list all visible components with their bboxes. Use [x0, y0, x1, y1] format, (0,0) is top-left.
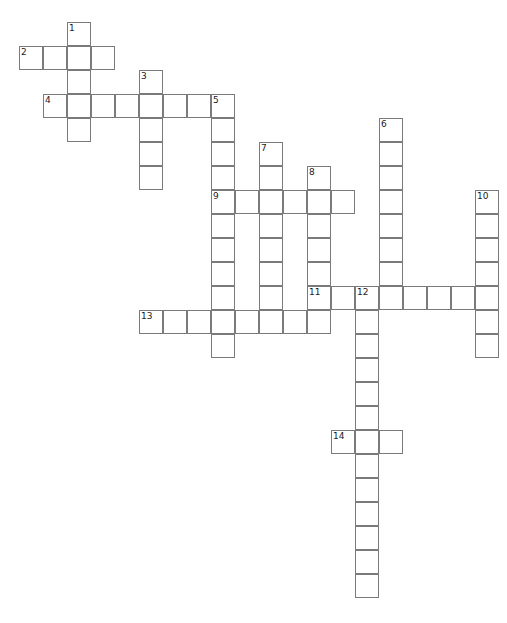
crossword-cell[interactable]	[355, 478, 379, 502]
crossword-cell[interactable]	[379, 190, 403, 214]
crossword-cell[interactable]	[355, 286, 379, 310]
crossword-cell[interactable]	[67, 118, 91, 142]
crossword-cell[interactable]	[163, 94, 187, 118]
crossword-cell[interactable]	[139, 166, 163, 190]
crossword-cell[interactable]	[355, 358, 379, 382]
crossword-cell[interactable]	[379, 430, 403, 454]
crossword-cell[interactable]	[67, 22, 91, 46]
crossword-cell[interactable]	[475, 286, 499, 310]
crossword-cell[interactable]	[475, 214, 499, 238]
crossword-cell[interactable]	[139, 118, 163, 142]
crossword-cell[interactable]	[475, 334, 499, 358]
crossword-cell[interactable]	[67, 46, 91, 70]
crossword-cell[interactable]	[163, 310, 187, 334]
crossword-cell[interactable]	[235, 190, 259, 214]
crossword-cell[interactable]	[43, 46, 67, 70]
crossword-grid[interactable]: 1234567891011121314	[0, 0, 507, 623]
crossword-cell[interactable]	[235, 310, 259, 334]
crossword-cell[interactable]	[331, 190, 355, 214]
crossword-cell[interactable]	[211, 142, 235, 166]
crossword-cell[interactable]	[355, 430, 379, 454]
crossword-cell[interactable]	[211, 94, 235, 118]
crossword-cell[interactable]	[139, 70, 163, 94]
crossword-cell[interactable]	[211, 310, 235, 334]
crossword-cell[interactable]	[403, 286, 427, 310]
crossword-cell[interactable]	[355, 454, 379, 478]
crossword-cell[interactable]	[43, 94, 67, 118]
crossword-cell[interactable]	[67, 70, 91, 94]
crossword-cell[interactable]	[331, 430, 355, 454]
crossword-cell[interactable]	[91, 94, 115, 118]
crossword-cell[interactable]	[259, 238, 283, 262]
crossword-cell[interactable]	[115, 94, 139, 118]
crossword-cell[interactable]	[211, 286, 235, 310]
crossword-cell[interactable]	[355, 382, 379, 406]
crossword-cell[interactable]	[307, 166, 331, 190]
crossword-cell[interactable]	[307, 238, 331, 262]
crossword-cell[interactable]	[283, 190, 307, 214]
crossword-cell[interactable]	[259, 142, 283, 166]
crossword-cell[interactable]	[427, 286, 451, 310]
crossword-cell[interactable]	[355, 502, 379, 526]
crossword-cell[interactable]	[355, 406, 379, 430]
crossword-cell[interactable]	[475, 310, 499, 334]
crossword-cell[interactable]	[475, 190, 499, 214]
crossword-cell[interactable]	[307, 190, 331, 214]
crossword-cell[interactable]	[379, 118, 403, 142]
crossword-cell[interactable]	[91, 46, 115, 70]
crossword-cell[interactable]	[259, 286, 283, 310]
crossword-cell[interactable]	[211, 262, 235, 286]
crossword-cell[interactable]	[211, 334, 235, 358]
crossword-cell[interactable]	[379, 286, 403, 310]
crossword-cell[interactable]	[355, 526, 379, 550]
crossword-cell[interactable]	[355, 574, 379, 598]
crossword-cell[interactable]	[307, 214, 331, 238]
crossword-cell[interactable]	[139, 310, 163, 334]
crossword-cell[interactable]	[355, 334, 379, 358]
crossword-cell[interactable]	[211, 166, 235, 190]
crossword-cell[interactable]	[259, 190, 283, 214]
crossword-cell[interactable]	[211, 118, 235, 142]
crossword-cell[interactable]	[19, 46, 43, 70]
crossword-cell[interactable]	[475, 238, 499, 262]
crossword-cell[interactable]	[379, 166, 403, 190]
crossword-cell[interactable]	[67, 94, 91, 118]
crossword-cell[interactable]	[355, 310, 379, 334]
crossword-cell[interactable]	[187, 94, 211, 118]
crossword-cell[interactable]	[211, 238, 235, 262]
crossword-cell[interactable]	[475, 262, 499, 286]
crossword-cell[interactable]	[307, 286, 331, 310]
crossword-cell[interactable]	[259, 262, 283, 286]
crossword-cell[interactable]	[259, 166, 283, 190]
crossword-cell[interactable]	[283, 310, 307, 334]
crossword-cell[interactable]	[379, 142, 403, 166]
crossword-cell[interactable]	[307, 262, 331, 286]
crossword-cell[interactable]	[331, 286, 355, 310]
crossword-cell[interactable]	[451, 286, 475, 310]
crossword-cell[interactable]	[259, 214, 283, 238]
crossword-cell[interactable]	[139, 142, 163, 166]
crossword-cell[interactable]	[139, 94, 163, 118]
crossword-cell[interactable]	[355, 550, 379, 574]
crossword-cell[interactable]	[379, 238, 403, 262]
crossword-cell[interactable]	[307, 310, 331, 334]
crossword-cell[interactable]	[211, 214, 235, 238]
crossword-cell[interactable]	[379, 262, 403, 286]
crossword-cell[interactable]	[379, 214, 403, 238]
crossword-cell[interactable]	[187, 310, 211, 334]
crossword-cell[interactable]	[259, 310, 283, 334]
crossword-cell[interactable]	[211, 190, 235, 214]
crossword-puzzle: 1234567891011121314	[0, 0, 507, 623]
